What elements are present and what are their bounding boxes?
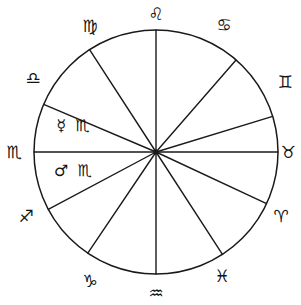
sign-glyph-pisces: ♓ <box>214 268 229 285</box>
sign-glyph-scorpio: ♏ <box>6 144 21 161</box>
sign-glyph-leo: ♌ <box>148 6 163 23</box>
sign-glyph-aries: ♈ <box>273 208 288 225</box>
zodiac-wheel-svg <box>0 0 301 305</box>
sign-glyph-capricorn: ♑ <box>82 273 97 290</box>
sign-glyph-cancer: ♋ <box>216 17 231 34</box>
mars-in-scorpio: ♂ ♏ <box>54 163 94 179</box>
sign-glyph-virgo: ♍ <box>82 18 97 35</box>
mercury-in-scorpio: ☿ ♏ <box>56 118 91 134</box>
sign-glyph-sagittarius: ♐ <box>18 208 33 225</box>
sign-glyph-aquarius: ♒ <box>148 285 163 302</box>
sign-glyph-gemini: ♊ <box>277 74 292 91</box>
zodiac-wheel-figure: ♌♋♊♉♈♓♒♑♐♏♎♍ ☿ ♏♂ ♏ <box>0 0 301 305</box>
wheel-center-hub <box>153 149 158 154</box>
sign-glyph-libra: ♎ <box>25 70 40 87</box>
sign-glyph-taurus: ♉ <box>280 144 295 161</box>
